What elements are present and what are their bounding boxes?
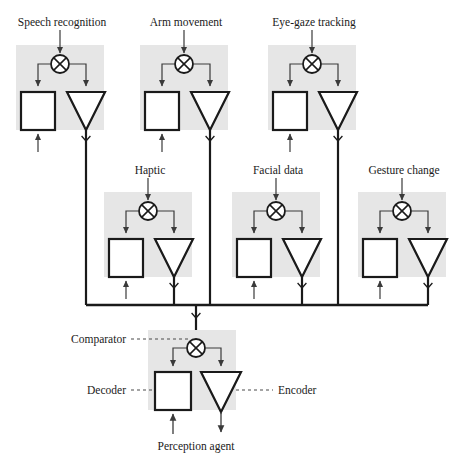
unit-perception-agent[interactable]: Perception agent — [148, 330, 241, 453]
perception-agent-diagram: Speech recognition Arm movement Eye-gaze… — [0, 0, 465, 463]
decoder-block-speech-recognition — [21, 92, 55, 130]
unit-label-facial-data: Facial data — [253, 164, 303, 176]
unit-label-haptic: Haptic — [135, 164, 166, 177]
decoder-block-gesture-change — [363, 239, 397, 277]
unit-gesture-change[interactable]: Gesture change — [358, 164, 447, 305]
decoder-block-eye-gaze-tracking — [273, 92, 307, 130]
unit-speech-recognition[interactable]: Speech recognition — [16, 16, 106, 305]
unit-facial-data[interactable]: Facial data — [232, 164, 321, 305]
decoder-block-haptic — [109, 239, 143, 277]
decoder-block-facial-data — [237, 239, 271, 277]
unit-label-arm-movement: Arm movement — [150, 16, 223, 28]
unit-label-eye-gaze-tracking: Eye-gaze tracking — [272, 16, 356, 29]
callout-label-comparator: Comparator — [71, 333, 126, 346]
decoder-block-perception-agent — [155, 372, 191, 410]
callout-label-encoder: Encoder — [278, 384, 316, 396]
unit-label-speech-recognition: Speech recognition — [18, 16, 107, 29]
callout-label-decoder: Decoder — [87, 384, 126, 396]
unit-label-perception-agent: Perception agent — [158, 440, 236, 453]
decoder-block-arm-movement — [145, 92, 179, 130]
unit-label-gesture-change: Gesture change — [368, 164, 439, 177]
unit-haptic[interactable]: Haptic — [104, 164, 193, 305]
